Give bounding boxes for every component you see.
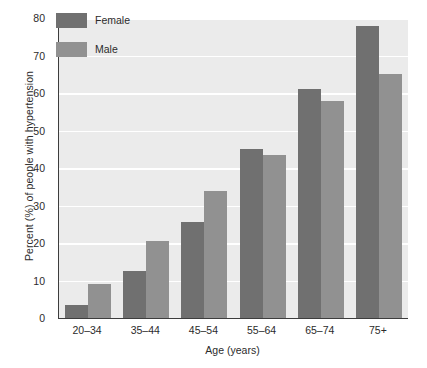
y-tick-label: 10 xyxy=(33,275,45,287)
bar-male[interactable] xyxy=(379,74,402,318)
x-tick-label: 45–54 xyxy=(174,324,232,336)
bar-male[interactable] xyxy=(321,101,344,319)
legend-swatch-female xyxy=(56,13,87,28)
legend: FemaleMale xyxy=(56,12,130,70)
y-tick-label: 30 xyxy=(33,200,45,212)
bar-male[interactable] xyxy=(88,284,111,318)
hypertension-by-age-bar-chart: Percent (%) of people with hypertension … xyxy=(0,0,427,368)
legend-entry-female[interactable]: Female xyxy=(56,12,130,28)
bar-male[interactable] xyxy=(204,191,227,319)
y-tick-label: 40 xyxy=(33,162,45,174)
y-tick-label: 60 xyxy=(33,87,45,99)
y-tick-label: 50 xyxy=(33,125,45,137)
bar-group xyxy=(175,18,233,318)
x-tick-label: 35–44 xyxy=(116,324,174,336)
y-tick-label: 80 xyxy=(33,12,45,24)
bar-female[interactable] xyxy=(123,271,146,318)
bar-male[interactable] xyxy=(263,155,286,318)
legend-entry-male[interactable]: Male xyxy=(56,41,130,57)
y-tick-label: 70 xyxy=(33,50,45,62)
y-axis-tick-labels: 01020304050607080 xyxy=(0,0,55,368)
bar-female[interactable] xyxy=(181,222,204,318)
x-tick-label: 65–74 xyxy=(291,324,349,336)
x-tick-label: 55–64 xyxy=(233,324,291,336)
x-tick-label: 20–34 xyxy=(58,324,116,336)
x-axis-title: Age (years) xyxy=(58,344,407,356)
y-tick-label: 20 xyxy=(33,237,45,249)
bar-female[interactable] xyxy=(356,26,379,319)
x-tick-label: 75+ xyxy=(349,324,407,336)
bar-group xyxy=(234,18,292,318)
legend-label: Female xyxy=(95,14,130,26)
bar-group xyxy=(292,18,350,318)
legend-label: Male xyxy=(95,43,118,55)
legend-swatch-male xyxy=(56,42,87,57)
bar-female[interactable] xyxy=(240,149,263,318)
bar-female[interactable] xyxy=(65,305,88,318)
y-tick-label: 0 xyxy=(39,312,45,324)
bar-male[interactable] xyxy=(146,241,169,318)
bar-group xyxy=(350,18,408,318)
bar-female[interactable] xyxy=(298,89,321,318)
x-axis-tick-labels: 20–3435–4445–5455–6465–7475+ xyxy=(58,324,407,336)
